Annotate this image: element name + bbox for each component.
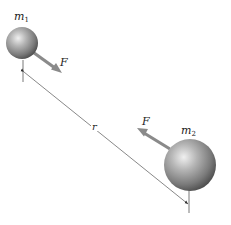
mass1-label: m1 [14, 10, 29, 24]
force-arrow-2 [137, 128, 170, 149]
force2-label: F [141, 115, 150, 128]
mass2-sphere [164, 139, 216, 191]
mass1-sphere [6, 27, 38, 59]
force-arrow-1 [30, 50, 62, 73]
mass2-label: m2 [181, 124, 196, 138]
distance-dimension-line [24, 72, 188, 204]
gravitation-diagram: m1 m2 F F r [0, 0, 231, 225]
force1-label: F [59, 56, 68, 69]
